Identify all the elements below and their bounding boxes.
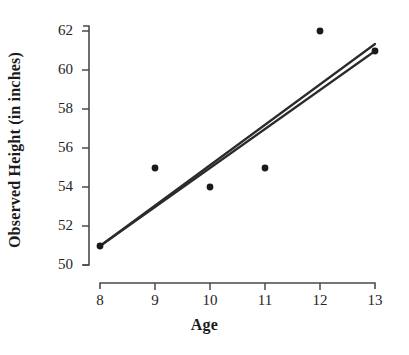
data-point-age-12	[317, 28, 324, 35]
data-point-age-11	[262, 165, 269, 172]
chart-figure: Observed Height (in inches) Age 50 52 54…	[0, 0, 409, 355]
data-point-age-13	[372, 48, 379, 55]
x-axis-spine	[100, 283, 375, 289]
data-point-age-9	[152, 165, 159, 172]
data-point-age-8	[97, 243, 104, 250]
fitted-line-lower	[100, 51, 375, 246]
y-axis-spine-group	[82, 26, 89, 265]
y-axis-spine	[83, 26, 89, 265]
x-axis-spine-group	[100, 283, 375, 290]
data-point-age-10	[207, 184, 214, 191]
fitted-lines-group	[100, 44, 375, 246]
plot-area	[0, 0, 409, 355]
